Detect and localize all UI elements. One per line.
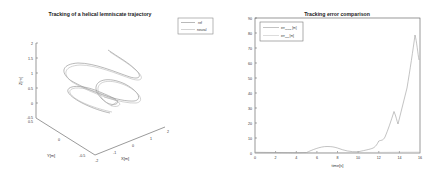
svg-text:12: 12 xyxy=(377,156,381,160)
svg-text:2: 2 xyxy=(167,130,169,134)
svg-text:10: 10 xyxy=(248,137,252,141)
trajectory-3d-plot: Tracking of a helical lemniscate traject… xyxy=(0,0,220,176)
svg-text:0: 0 xyxy=(250,152,252,156)
svg-text:0: 0 xyxy=(58,138,60,142)
y-axis: 0.5 0 -0.5 Y[m] xyxy=(28,118,95,158)
svg-text:-2: -2 xyxy=(95,159,98,163)
legend-neural: neural xyxy=(197,28,207,32)
svg-text:4: 4 xyxy=(295,156,297,160)
z-axis: 2 1.5 1 0.5 0 -0.5 Z[m] xyxy=(18,42,38,121)
svg-text:1: 1 xyxy=(31,72,33,76)
svg-text:0: 0 xyxy=(132,144,134,148)
svg-text:0: 0 xyxy=(254,156,256,160)
svg-text:16: 16 xyxy=(418,156,422,160)
svg-text:1.5: 1.5 xyxy=(28,57,33,61)
legend-ref: ref xyxy=(198,21,202,25)
y-tick-labels: 90 80 70 60 50 40 30 20 10 0 xyxy=(248,17,252,156)
svg-text:0.5: 0.5 xyxy=(28,87,33,91)
svg-text:0.5: 0.5 xyxy=(28,120,33,124)
svg-text:8: 8 xyxy=(337,156,339,160)
svg-text:-1: -1 xyxy=(113,151,116,155)
right-title: Tracking error comparison xyxy=(304,11,370,17)
x-axis: -2 -1 0 1 2 X[m] xyxy=(95,127,169,163)
svg-text:90: 90 xyxy=(248,17,252,21)
error-plot: Tracking error comparison 90 80 70 60 50… xyxy=(220,0,439,176)
svg-text:2: 2 xyxy=(275,156,277,160)
svg-text:50: 50 xyxy=(248,77,252,81)
svg-text:0: 0 xyxy=(31,102,33,106)
svg-text:20: 20 xyxy=(248,122,252,126)
svg-text:80: 80 xyxy=(248,32,252,36)
y-axis-label: Y[m] xyxy=(47,153,55,158)
trajectory-neural xyxy=(66,52,141,112)
right-legend: errneural [m] errnes [m] xyxy=(260,22,303,41)
left-title: Tracking of a helical lemniscate traject… xyxy=(49,11,152,17)
svg-text:14: 14 xyxy=(397,156,401,160)
x-axis-label: time[s] xyxy=(332,163,344,168)
svg-text:6: 6 xyxy=(316,156,318,160)
svg-text:40: 40 xyxy=(248,92,252,96)
svg-text:-0.5: -0.5 xyxy=(79,154,85,158)
svg-text:1: 1 xyxy=(150,137,152,141)
svg-text:2: 2 xyxy=(31,42,33,46)
left-figure: Tracking of a helical lemniscate traject… xyxy=(0,0,220,176)
trajectory-ref xyxy=(64,50,139,113)
x-tick-labels: 0 2 4 6 8 10 12 14 16 xyxy=(254,156,422,160)
svg-text:60: 60 xyxy=(248,62,252,66)
right-figure: Tracking error comparison 90 80 70 60 50… xyxy=(220,0,439,176)
svg-text:70: 70 xyxy=(248,47,252,51)
left-legend: ref neural xyxy=(178,18,213,34)
svg-text:10: 10 xyxy=(356,156,360,160)
z-axis-label: Z[m] xyxy=(18,77,23,85)
x-axis-label: X[m] xyxy=(121,156,129,161)
svg-text:30: 30 xyxy=(248,107,252,111)
